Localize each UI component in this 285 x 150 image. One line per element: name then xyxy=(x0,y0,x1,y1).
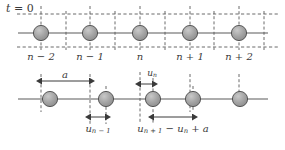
phonon-chain-figure: t = 0 n − 2 n − 1 n n + 1 n + 2 a un un … xyxy=(0,0,285,150)
site-label-n-minus-2: n − 2 xyxy=(27,52,55,62)
atom-top-5 xyxy=(231,25,246,40)
time-label: t = 0 xyxy=(6,3,34,14)
label-un: un xyxy=(147,69,157,78)
site-label-n-plus-1: n + 1 xyxy=(176,52,204,62)
atom-top-1 xyxy=(33,25,48,40)
label-spacing-expression: un + 1 − un + a xyxy=(137,124,208,135)
bottom-panel-group xyxy=(18,72,268,124)
atom-bottom-1 xyxy=(42,91,57,106)
atom-top-2 xyxy=(82,25,97,40)
label-un-minus-1: un − 1 xyxy=(85,124,110,135)
atom-bottom-3 xyxy=(145,91,160,106)
atom-bottom-2 xyxy=(98,91,113,106)
site-label-n-minus-1: n − 1 xyxy=(76,52,104,62)
label-lattice-constant-a: a xyxy=(62,70,68,80)
atom-top-3 xyxy=(132,25,147,40)
atom-top-4 xyxy=(182,25,197,40)
site-label-n: n xyxy=(137,52,143,62)
top-panel-group xyxy=(17,6,278,50)
atom-bottom-4 xyxy=(185,91,200,106)
atom-bottom-5 xyxy=(232,91,247,106)
site-label-n-plus-2: n + 2 xyxy=(225,52,253,62)
